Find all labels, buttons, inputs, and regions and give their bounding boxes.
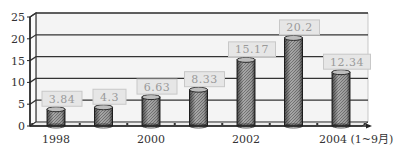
x-tick-label: 1998	[42, 133, 70, 146]
bar	[95, 105, 113, 128]
bar	[190, 87, 208, 128]
x-tick-label: 2004 (1~9月)	[319, 133, 393, 146]
x-axis: 1998200020022004 (1~9月)	[30, 123, 393, 146]
value-label: 12.34	[324, 54, 371, 69]
x-tick-label: 2002	[232, 133, 260, 146]
bar-chart: 0510152025 3.844.36.638.3315.1720.212.34…	[0, 0, 412, 154]
svg-text:4.3: 4.3	[100, 91, 119, 104]
y-tick-label: 25	[11, 11, 25, 24]
y-axis: 0510152025	[11, 11, 30, 133]
svg-text:20.2: 20.2	[286, 21, 313, 34]
value-label: 20.2	[280, 20, 320, 35]
x-tick-label: 2000	[137, 133, 165, 146]
svg-text:12.34: 12.34	[330, 56, 364, 69]
bar	[285, 35, 303, 128]
svg-text:15.17: 15.17	[235, 43, 269, 56]
y-tick-label: 15	[11, 55, 25, 68]
bar	[237, 57, 255, 128]
svg-text:6.63: 6.63	[144, 81, 171, 94]
value-label: 6.63	[137, 79, 177, 94]
svg-text:8.33: 8.33	[191, 73, 218, 86]
value-label: 8.33	[185, 72, 225, 87]
y-tick-label: 5	[18, 98, 25, 111]
bar	[142, 95, 160, 128]
value-label: 4.3	[93, 89, 126, 104]
y-tick-label: 0	[18, 120, 25, 133]
bar	[332, 70, 350, 128]
y-tick-label: 20	[11, 33, 25, 46]
value-label: 15.17	[229, 42, 276, 57]
svg-text:3.84: 3.84	[49, 93, 76, 106]
bar	[47, 107, 65, 128]
value-label: 3.84	[42, 91, 82, 106]
y-tick-label: 10	[11, 76, 25, 89]
